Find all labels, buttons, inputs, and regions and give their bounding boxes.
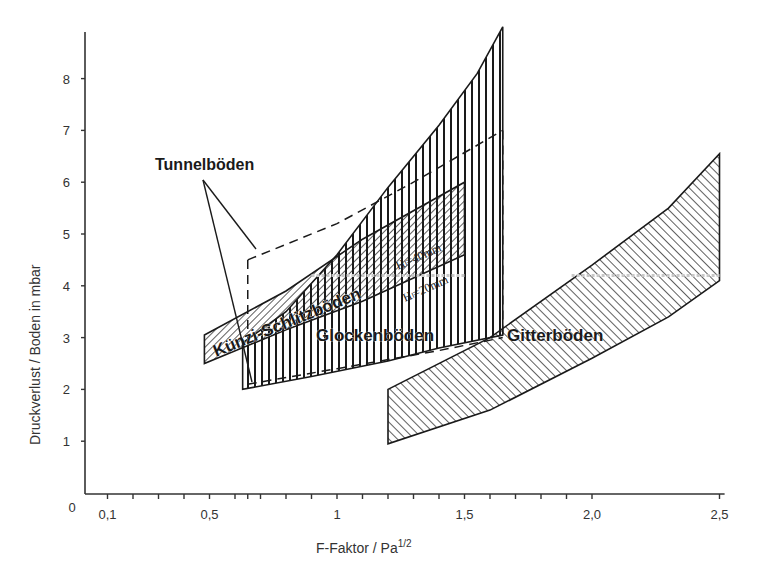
x-tick-label: 1 xyxy=(333,507,340,522)
x-tick-label: 2,0 xyxy=(583,507,601,522)
x-tick-label: 2,5 xyxy=(710,507,728,522)
gitterboeden-label: Gitterböden xyxy=(507,326,603,345)
x-tick-label: 0,1 xyxy=(98,507,116,522)
x-tick-label: 1,5 xyxy=(455,507,473,522)
glockenboeden-label: Glockenböden xyxy=(316,326,434,345)
y-tick-label: 7 xyxy=(63,123,70,138)
y-tick-label: 8 xyxy=(63,72,70,87)
y-tick-label: 3 xyxy=(63,331,70,346)
y-tick-label: 4 xyxy=(63,279,70,294)
x-axis-title: F-Faktor / Pa1/2 xyxy=(316,538,412,556)
y-tick-label: 6 xyxy=(63,175,70,190)
origin-label: 0 xyxy=(68,500,75,515)
y-axis-title: Druckverlust / Boden in mbar xyxy=(27,264,43,445)
x-axis-title-main: F-Faktor / Pa xyxy=(316,540,398,556)
plot-regions xyxy=(204,27,719,444)
y-tick-label: 5 xyxy=(63,227,70,242)
y-tick-label: 1 xyxy=(63,434,70,449)
x-tick-label: 0,5 xyxy=(200,507,218,522)
tunnelboeden-label: Tunnelböden xyxy=(155,156,254,173)
x-axis-title-sup: 1/2 xyxy=(398,538,412,549)
y-tick-label: 2 xyxy=(63,382,70,397)
chart: 123456780,10,511,52,02,50 GlockenbödenKü… xyxy=(0,0,759,573)
